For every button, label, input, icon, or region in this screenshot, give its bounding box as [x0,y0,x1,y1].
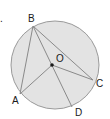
center-point [50,63,54,67]
circle [11,21,99,109]
geometry-diagram: . B O C A D [0,0,110,119]
label-B: B [28,13,35,24]
problem-marker: . [0,13,3,24]
label-C: C [96,78,103,89]
label-A: A [12,95,19,106]
label-O: O [56,53,64,64]
label-D: D [75,107,82,118]
